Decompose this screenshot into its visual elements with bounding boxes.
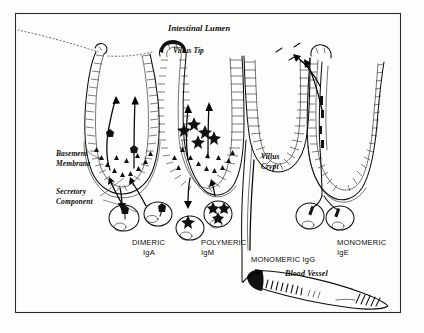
label-villus-tip: Villus Tip <box>173 47 204 55</box>
figure-intestinal-immunoglobulin-transport: Intestinal Lumen Villus Tip Basement Mem… <box>0 0 424 333</box>
label-villus-crypt-line2: Crypt <box>261 163 279 171</box>
plasma-cell-igm-2 <box>204 201 232 228</box>
plasma-cell-iga-1 <box>109 205 139 231</box>
transport-arrow-igg <box>250 160 254 250</box>
label-secretory-component-line1: Secretory <box>56 188 86 196</box>
label-dimeric-iga-line1: DIMERIC <box>132 239 165 247</box>
label-secretory-component-line2: Component <box>56 198 93 206</box>
mucus-layer-dotted-line <box>18 30 152 56</box>
villus-2-polymeric-igm <box>157 40 244 197</box>
label-polymeric-igm-line2: IgM <box>201 249 214 257</box>
label-villus-crypt-line1: Villus <box>261 153 280 161</box>
label-basement-membrane-line1: Basement <box>56 150 87 158</box>
label-basement-membrane-line2: Membrane <box>56 160 91 168</box>
plasma-cell-ige-1 <box>296 203 324 229</box>
label-blood-vessel: Blood Vessel <box>285 270 328 279</box>
label-monomeric-ige-line2: IgE <box>337 249 349 257</box>
label-polymeric-igm-line1: POLYMERIC <box>201 239 246 247</box>
label-monomeric-ige-line1: MONOMERIC <box>337 239 386 247</box>
plasma-cell-ige-2 <box>326 206 354 230</box>
label-dimeric-iga-line2: IgA <box>143 249 155 257</box>
plasma-cell-igm-1 <box>176 215 204 240</box>
label-intestinal-lumen: Intestinal Lumen <box>168 24 230 33</box>
plasma-cells <box>109 196 354 240</box>
label-monomeric-igg: MONOMERIC IgG <box>251 256 315 264</box>
transport-arrows-villus-4-ige <box>276 43 322 110</box>
villus-4-monomeric-ige <box>307 45 384 202</box>
polymeric-igm-stars-villus-2 <box>172 117 235 173</box>
transport-arrows-villus-2 <box>184 102 216 209</box>
secretory-component-triangles-villus-1 <box>94 129 153 177</box>
plasma-cell-iga-2 <box>144 202 172 226</box>
